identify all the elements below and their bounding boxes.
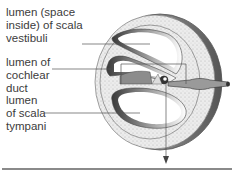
arrow-head-icon bbox=[163, 156, 169, 164]
bottom-separator bbox=[2, 168, 232, 170]
cochlea-cross-section-diagram bbox=[0, 0, 234, 172]
